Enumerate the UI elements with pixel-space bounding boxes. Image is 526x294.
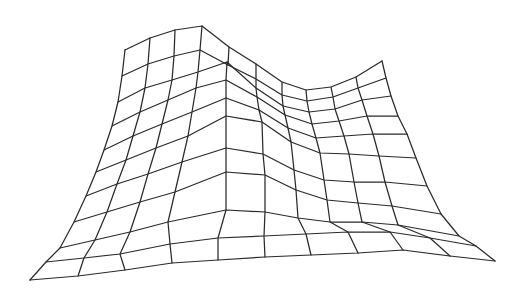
mesh-column-lines	[30, 26, 495, 280]
mesh-column-line	[356, 77, 450, 256]
mesh-row-line	[125, 26, 382, 90]
mesh-column-line	[382, 61, 495, 261]
mesh-column-line	[30, 50, 125, 280]
mesh-column-line	[218, 47, 229, 260]
mesh-column-line	[306, 90, 358, 253]
mesh-row-line	[30, 250, 495, 280]
mesh-row-line	[122, 50, 386, 101]
mesh-column-line	[78, 38, 150, 276]
wireframe-surface-figure	[0, 0, 526, 294]
mesh-row-line	[96, 116, 416, 172]
wireframe-mesh	[0, 0, 526, 294]
mesh-column-line	[331, 87, 403, 250]
mesh-row-line	[60, 210, 459, 248]
mesh-row-line	[104, 98, 407, 150]
mesh-column-line	[282, 82, 311, 255]
